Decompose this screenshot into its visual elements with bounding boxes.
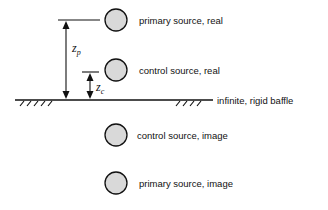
source-control-image: control source, image [105, 124, 228, 146]
primary-real-label: primary source, real [139, 15, 223, 26]
source-primary-image: primary source, image [105, 172, 233, 194]
source-control-real: control source, real [105, 59, 220, 81]
zp-dimension: zp [58, 20, 100, 99]
hatch-left [20, 101, 52, 106]
source-primary-real: primary source, real [105, 9, 223, 31]
image-source-diagram: infinite, rigid baffle zp zc primary sou… [0, 0, 328, 210]
control-image-label: control source, image [137, 130, 228, 141]
control-real-label: control source, real [139, 65, 220, 76]
control-image-circle-icon [105, 124, 127, 146]
zc-label: zc [95, 80, 105, 96]
zp-label: zp [71, 41, 81, 57]
hatch-right [176, 101, 201, 106]
zc-dimension: zc [82, 72, 105, 99]
baffle-label: infinite, rigid baffle [217, 95, 293, 106]
baffle: infinite, rigid baffle [15, 95, 293, 107]
primary-real-circle-icon [105, 9, 127, 31]
primary-image-circle-icon [105, 172, 127, 194]
control-real-circle-icon [105, 59, 127, 81]
primary-image-label: primary source, image [139, 178, 233, 189]
